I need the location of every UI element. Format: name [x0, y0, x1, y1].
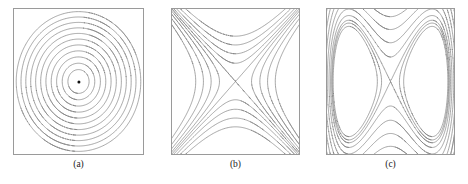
- panel-c-contour-plot: [326, 8, 455, 155]
- contour-figure: (a) (b) (c): [0, 0, 468, 184]
- panel-a: [13, 8, 144, 155]
- panel-c-caption: (c): [326, 160, 455, 170]
- panel-b-caption: (b): [171, 160, 300, 170]
- panel-c: [326, 8, 455, 155]
- panel-a-caption: (a): [13, 160, 144, 170]
- panel-b: [171, 8, 300, 155]
- panel-b-contour-plot: [171, 8, 300, 155]
